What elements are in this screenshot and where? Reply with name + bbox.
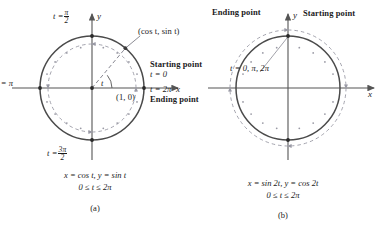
panel-a-letter: (a) — [0, 203, 190, 213]
label-point-cos-sin: (cos t, sin t) — [138, 27, 180, 36]
panel-a: t =π2 y (cos t, sin t) t = π t (1, 0) St… — [0, 0, 190, 233]
label-angle-t: t — [101, 79, 103, 88]
label-origin-point: (1, 0) — [116, 93, 135, 102]
point-bottom — [286, 138, 290, 142]
figure-root: t =π2 y (cos t, sin t) t = π t (1, 0) St… — [0, 0, 378, 233]
y-axis-label: y — [97, 12, 101, 21]
label-t-three-half-pi: t =3π2 — [47, 146, 67, 162]
caption-b-line1: x = sin 2t, y = cos 2t — [188, 178, 378, 188]
caption-b-line2: 0 ≤ t ≤ 2π — [188, 190, 378, 200]
label-t-pi: t = π — [0, 79, 13, 88]
angle-arc — [107, 75, 112, 88]
caption-a-line1: x = cos t, y = sin t — [0, 170, 190, 180]
radius-ray — [92, 48, 125, 88]
label-t-half-pi: t =π2 — [53, 9, 69, 25]
panel-b: Ending point y Starting point t = 0, π, … — [188, 0, 378, 233]
point-start-end — [286, 34, 290, 38]
label-t-equals-two-pi: t = 2π — [150, 85, 171, 94]
label-t-values: t = 0, π, 2π — [230, 64, 269, 73]
x-axis-label: x — [368, 90, 372, 99]
label-starting-point-b: Starting point — [303, 9, 355, 18]
caption-a-line2: 0 ≤ t ≤ 2π — [0, 182, 190, 192]
label-t-equals-zero: t = 0 — [150, 70, 167, 79]
y-axis-label: y — [293, 11, 297, 20]
point-leader-line — [127, 36, 140, 47]
label-ending-point-b: Ending point — [212, 8, 261, 17]
panel-b-letter: (b) — [188, 210, 378, 220]
